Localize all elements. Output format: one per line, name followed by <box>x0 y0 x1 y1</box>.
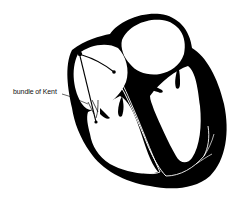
accessory-endpoint <box>94 120 97 123</box>
heart-diagram: bundle of Kent <box>0 0 242 199</box>
av-node <box>112 70 116 74</box>
sa-node <box>78 52 82 56</box>
heart-illustration <box>0 0 242 199</box>
bundle-of-kent-label: bundle of Kent <box>13 88 57 95</box>
